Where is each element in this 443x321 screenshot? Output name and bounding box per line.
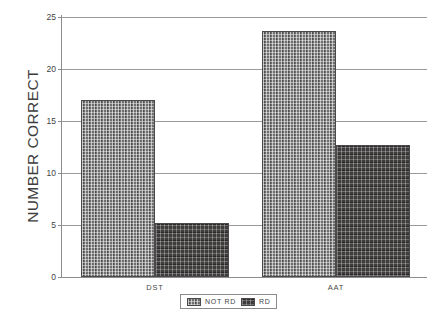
legend-swatch-not-rd-icon (187, 298, 201, 306)
y-tick-label-10: 10 (47, 168, 56, 178)
bar-aat-not-rd (262, 31, 336, 277)
legend-label-not-rd: NOT RD (205, 298, 236, 305)
y-tickmark-10 (58, 173, 62, 174)
y-tick-label-25: 25 (47, 12, 56, 22)
gridline-20: 20 (62, 69, 427, 70)
bar-dst-not-rd (81, 100, 155, 277)
y-tick-label-20: 20 (47, 64, 56, 74)
y-tick-label-15: 15 (47, 116, 56, 126)
y-axis-title: NUMBER CORRECT (24, 41, 42, 251)
x-tick-label-aat: AAT (328, 283, 344, 292)
y-tick-label-5: 5 (51, 220, 56, 230)
y-tickmark-15 (58, 121, 62, 122)
y-axis-line (61, 15, 62, 278)
y-tickmark-0 (58, 277, 62, 278)
plot-area: 25 20 15 10 5 0 DST AAT (62, 17, 427, 277)
y-tickmark-5 (58, 225, 62, 226)
legend-entry-rd: RD (241, 298, 271, 306)
y-tickmark-20 (58, 69, 62, 70)
legend-entry-not-rd: NOT RD (187, 298, 236, 306)
bar-dst-rd (155, 223, 229, 277)
y-tick-label-0: 0 (51, 272, 56, 282)
legend-label-rd: RD (259, 298, 271, 305)
chart-legend: NOT RD RD (180, 294, 277, 309)
gridline-0: 0 (62, 277, 427, 278)
bar-chart-figure: NUMBER CORRECT 25 20 15 10 5 0 (0, 0, 443, 321)
y-tickmark-25 (58, 17, 62, 18)
legend-swatch-rd-icon (241, 298, 255, 306)
gridline-25: 25 (62, 17, 427, 18)
bar-aat-rd (336, 145, 410, 277)
x-tick-label-dst: DST (146, 283, 163, 292)
